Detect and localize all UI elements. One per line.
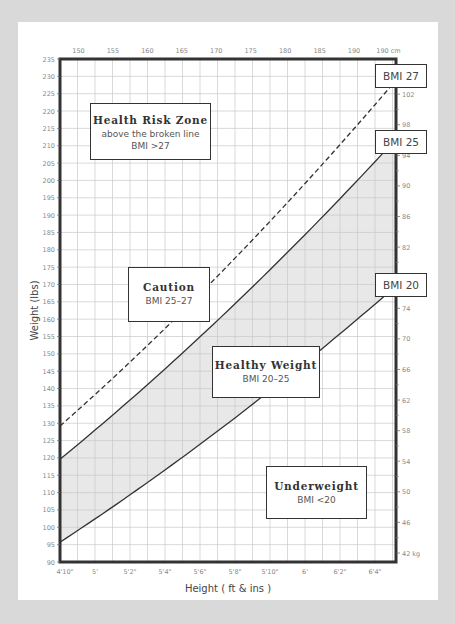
x-tick-label: 6'2": [333, 568, 346, 576]
kg-tick-label: 90: [402, 182, 410, 190]
x-tick-label: 5'6": [193, 568, 206, 576]
health-risk-zone-box: Health Risk Zone above the broken line B…: [90, 103, 211, 160]
x-top-tick-label: 175: [244, 47, 256, 55]
kg-tick-label: 46: [402, 519, 410, 527]
kg-tick-label: 86: [402, 213, 410, 221]
y-tick-label: 180: [43, 246, 55, 254]
x-top-tick-label: 180: [279, 47, 291, 55]
health-risk-line2: BMI >27: [91, 141, 210, 151]
bmi25-label: BMI 25: [375, 130, 427, 154]
y-tick-label: 135: [43, 402, 55, 410]
x-tick-label: 5'4": [158, 568, 171, 576]
y-tick-label: 160: [43, 316, 55, 324]
x-tick-label: 4'10": [56, 568, 73, 576]
underweight-title: Underweight: [267, 480, 366, 492]
y-tick-label: 125: [43, 437, 55, 445]
y-tick-label: 170: [43, 281, 55, 289]
x-top-tick-label: 190: [348, 47, 360, 55]
bmi20-label: BMI 20: [375, 273, 427, 297]
y-tick-label: 210: [43, 142, 55, 150]
y-tick-label: 195: [43, 194, 55, 202]
y-tick-label: 190: [43, 212, 55, 220]
x-tick-label: 5'2": [123, 568, 136, 576]
x-tick-label: 6': [302, 568, 308, 576]
caution-title: Caution: [129, 281, 209, 293]
x-top-tick-label: 170: [210, 47, 222, 55]
bmi-chart: 9095100105110115120125130135140145150155…: [0, 0, 455, 624]
y-tick-label: 225: [43, 90, 55, 98]
y-tick-label: 150: [43, 350, 55, 358]
kg-tick-label: 58: [402, 427, 410, 435]
y-tick-label: 95: [47, 541, 55, 549]
y-tick-label: 185: [43, 229, 55, 237]
y-tick-label: 100: [43, 524, 55, 532]
x-top-tick-label: 185: [313, 47, 325, 55]
y-tick-label: 235: [43, 56, 55, 64]
kg-tick-label: 102: [402, 91, 414, 99]
y-tick-label: 165: [43, 298, 55, 306]
y-tick-label: 120: [43, 454, 55, 462]
y-tick-label: 155: [43, 333, 55, 341]
kg-tick-label: 98: [402, 121, 410, 129]
underweight-sub: BMI <20: [267, 495, 366, 505]
kg-tick-label: 54: [402, 458, 410, 466]
y-tick-label: 110: [43, 489, 55, 497]
kg-tick-label: 74: [402, 305, 410, 313]
x-top-tick-label: 165: [176, 47, 188, 55]
kg-tick-label: 50: [402, 488, 410, 496]
x-axis-title: Height ( ft & ins ): [185, 583, 271, 594]
kg-tick-label: 70: [402, 335, 410, 343]
x-top-tick-label: 190 cm: [376, 47, 400, 55]
y-tick-label: 205: [43, 160, 55, 168]
health-risk-title: Health Risk Zone: [91, 114, 210, 126]
caution-sub: BMI 25–27: [129, 296, 209, 306]
kg-tick-label: 62: [402, 397, 410, 405]
y-tick-label: 215: [43, 125, 55, 133]
y-tick-label: 90: [47, 559, 55, 567]
y-tick-label: 115: [43, 472, 55, 480]
x-top-tick-label: 160: [141, 47, 153, 55]
x-top-tick-label: 155: [107, 47, 119, 55]
y-tick-label: 105: [43, 506, 55, 514]
y-tick-label: 175: [43, 264, 55, 272]
kg-tick-label: 66: [402, 366, 410, 374]
x-top-tick-label: 150: [72, 47, 84, 55]
y-tick-label: 230: [43, 73, 55, 81]
y-tick-label: 140: [43, 385, 55, 393]
y-tick-label: 220: [43, 108, 55, 116]
x-tick-label: 6'4": [368, 568, 381, 576]
healthy-weight-box: Healthy Weight BMI 20–25: [212, 346, 320, 398]
healthy-weight-title: Healthy Weight: [213, 359, 319, 371]
kg-tick-label: 82: [402, 244, 410, 252]
kg-tick-label: 42 kg: [402, 550, 420, 558]
x-tick-label: 5': [92, 568, 98, 576]
y-axis-title: Weight (lbs): [29, 280, 40, 340]
y-tick-label: 130: [43, 420, 55, 428]
x-tick-label: 5'8": [228, 568, 241, 576]
y-tick-label: 145: [43, 368, 55, 376]
underweight-box: Underweight BMI <20: [266, 466, 367, 519]
caution-box: Caution BMI 25–27: [128, 267, 210, 322]
x-tick-label: 5'10": [261, 568, 278, 576]
y-tick-label: 200: [43, 177, 55, 185]
health-risk-line1: above the broken line: [91, 129, 210, 139]
bmi27-label: BMI 27: [375, 64, 427, 88]
healthy-weight-sub: BMI 20–25: [213, 374, 319, 384]
